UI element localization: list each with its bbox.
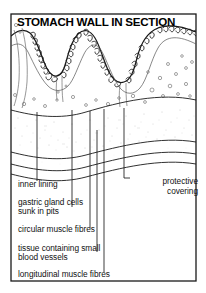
label-tissue-blood-vessels-line2: blood vessels (18, 253, 68, 263)
page-title: STOMACH WALL IN SECTION (17, 15, 175, 28)
label-circular-muscle-fibres: circular muscle fibres (18, 225, 95, 235)
label-longitudinal-muscle-fibres: longitudinal muscle fibres (18, 270, 110, 280)
label-protective-covering-line1: protective (163, 176, 198, 186)
label-protective-covering: protectivecovering (163, 176, 198, 196)
label-inner-lining: inner lining (18, 180, 58, 190)
label-protective-covering-line2: covering (167, 186, 198, 196)
label-gastric-gland-cells-line2: sunk in pits (18, 207, 59, 217)
